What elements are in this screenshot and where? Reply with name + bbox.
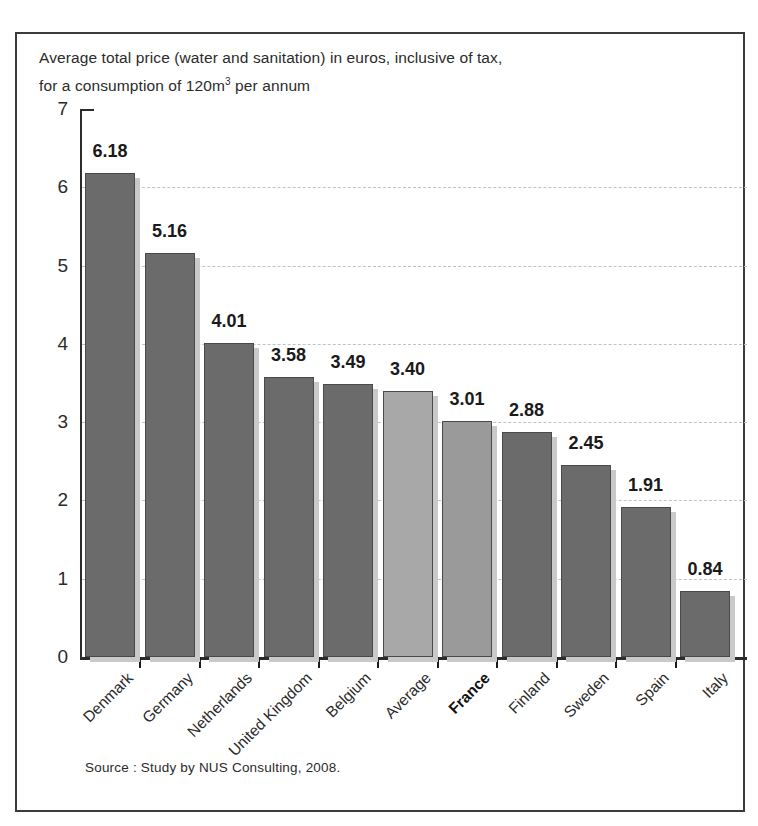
bar-value-label: 3.58: [271, 345, 306, 366]
bar-france[interactable]: 3.01: [442, 421, 492, 657]
bar-fill: [323, 384, 373, 657]
bar-italy[interactable]: 0.84: [680, 591, 730, 657]
bar-fill: [561, 465, 611, 657]
chart-title-line-2-after: per annum: [231, 77, 310, 94]
bar-netherlands[interactable]: 4.01: [204, 343, 254, 657]
bar-germany[interactable]: 5.16: [145, 253, 195, 657]
chart-title: Average total price (water and sanitatio…: [39, 46, 699, 98]
bar-value-label: 0.84: [687, 559, 722, 580]
bar-fill: [204, 343, 254, 657]
x-axis-label-average: Average: [381, 669, 434, 722]
y-axis-tick-label-5: 5: [38, 255, 68, 277]
y-axis-line: [80, 109, 82, 657]
y-axis-tick-label-0: 0: [38, 646, 68, 668]
y-axis-tick-label-6: 6: [38, 176, 68, 198]
bar-value-label: 2.45: [568, 433, 603, 454]
x-axis-label-finland: Finland: [505, 669, 554, 718]
bar-united-kingdom[interactable]: 3.58: [264, 377, 314, 657]
y-axis-tick-label-4: 4: [38, 333, 68, 355]
bar-value-label: 3.40: [390, 359, 425, 380]
x-axis-label-france: France: [445, 669, 494, 718]
y-axis-tick-label-7: 7: [38, 98, 68, 120]
bar-value-label: 1.91: [628, 475, 663, 496]
bar-value-label: 3.49: [330, 352, 365, 373]
x-axis-label-italy: Italy: [699, 669, 732, 702]
bar-fill: [145, 253, 195, 657]
plot-area: 01234567 6.185.164.013.583.493.403.012.8…: [80, 109, 747, 657]
x-axis-label-germany: Germany: [138, 669, 196, 727]
bar-fill: [502, 432, 552, 657]
bar-fill: [442, 421, 492, 657]
bar-value-label: 4.01: [211, 311, 246, 332]
bar-value-label: 2.88: [509, 400, 544, 421]
bar-belgium[interactable]: 3.49: [323, 384, 373, 657]
chart-title-line-1: Average total price (water and sanitatio…: [39, 49, 502, 66]
x-axis-label-spain: Spain: [631, 669, 672, 710]
bar-average[interactable]: 3.40: [383, 391, 433, 657]
bar-fill: [264, 377, 314, 657]
bar-finland[interactable]: 2.88: [502, 432, 552, 657]
bar-fill: [383, 391, 433, 657]
x-axis-label-sweden: Sweden: [560, 669, 612, 721]
y-axis-top-tick: [80, 109, 94, 111]
bar-value-label: 5.16: [152, 221, 187, 242]
bar-value-label: 6.18: [92, 141, 127, 162]
bar-value-label: 3.01: [449, 389, 484, 410]
bar-denmark[interactable]: 6.18: [85, 173, 135, 657]
bar-spain[interactable]: 1.91: [621, 507, 671, 657]
source-note: Source : Study by NUS Consulting, 2008.: [85, 760, 340, 775]
y-axis-tick-label-3: 3: [38, 411, 68, 433]
bar-fill: [621, 507, 671, 657]
x-axis-label-belgium: Belgium: [322, 669, 374, 721]
y-axis-tick-label-2: 2: [38, 489, 68, 511]
chart-title-line-2-before: for a consumption of 120m: [39, 77, 225, 94]
figure-frame: Average total price (water and sanitatio…: [15, 32, 745, 812]
x-axis-label-denmark: Denmark: [80, 669, 137, 726]
bar-fill: [680, 591, 730, 657]
bar-sweden[interactable]: 2.45: [561, 465, 611, 657]
y-axis-tick-label-1: 1: [38, 568, 68, 590]
bar-fill: [85, 173, 135, 657]
gridline-6: [82, 187, 747, 188]
